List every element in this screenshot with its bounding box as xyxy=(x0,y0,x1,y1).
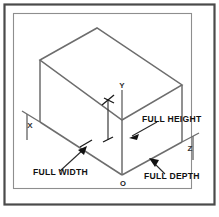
origin-label: O xyxy=(120,179,126,188)
x-axis-label: X xyxy=(27,121,33,130)
full-height-label: FULL HEIGHT xyxy=(142,114,202,124)
figure-canvas: FULL HEIGHT FULL WIDTH FULL DEPTH X Y Z … xyxy=(0,0,219,217)
z-axis-label: Z xyxy=(188,144,193,153)
full-depth-label: FULL DEPTH xyxy=(144,171,200,181)
full-width-label: FULL WIDTH xyxy=(33,167,88,177)
isometric-dimension-figure: FULL HEIGHT FULL WIDTH FULL DEPTH X Y Z … xyxy=(0,0,219,217)
y-axis-label: Y xyxy=(119,81,125,90)
